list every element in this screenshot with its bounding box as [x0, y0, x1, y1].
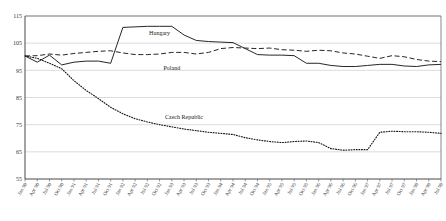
x-axis-tick-label: Oct 91 [101, 181, 113, 196]
y-axis-tick-label: 65 [16, 149, 22, 155]
x-axis-tick-label: Jul 90 [41, 181, 53, 195]
x-axis-tick-label: Oct 96 [346, 181, 358, 196]
y-axis-tick-label: 55 [16, 176, 22, 182]
x-axis-tick-label: Apr 91 [77, 181, 90, 197]
series-label-poland: Poland [163, 65, 180, 71]
y-axis-tick-label: 95 [16, 68, 22, 74]
x-axis-tick-label: Apr 92 [126, 181, 139, 197]
series-label-hungary: Hungary [149, 30, 170, 36]
x-axis-tick-label: Apr 96 [321, 181, 334, 197]
x-axis-tick-label: Oct 97 [395, 181, 407, 196]
x-axis-tick-label: Oct 92 [150, 181, 162, 196]
series-line-czech-republic [25, 56, 441, 150]
chart-container: 1151059585756555Jan 90Apr 90Jul 90Oct 90… [0, 0, 446, 221]
x-axis-tick-label: Jan 96 [310, 181, 322, 196]
y-axis-tick-label: 75 [16, 122, 22, 128]
x-axis-tick-label: Apr 95 [272, 181, 285, 197]
x-axis-tick-label: Jul 97 [383, 181, 395, 195]
y-axis-tick-label: 105 [13, 40, 22, 46]
x-axis-tick-label: Jan 90 [16, 181, 28, 196]
x-axis-tick-label: Jan 92 [114, 181, 126, 196]
x-axis-tick-label: Jan 98 [407, 181, 419, 196]
x-axis-tick-label: Jul 98 [432, 181, 444, 195]
x-axis-tick-label: Apr 97 [370, 181, 383, 197]
x-axis-tick-label: Jul 96 [335, 181, 347, 195]
x-axis-tick-label: Jan 93 [163, 181, 175, 196]
x-axis-tick-label: Oct 95 [297, 181, 309, 196]
x-axis-tick-label: Apr 98 [419, 181, 432, 197]
x-axis-tick-label: Jul 95 [286, 181, 298, 195]
x-axis-tick-label: Apr 93 [174, 181, 187, 197]
x-axis-tick-label: Apr 90 [28, 181, 41, 197]
x-axis-tick-label: Oct 93 [199, 181, 211, 196]
series-line-hungary [25, 26, 441, 66]
x-axis-tick-label: Oct 90 [52, 181, 64, 196]
series-line-poland [25, 48, 441, 62]
x-axis-tick-label: Jul 91 [90, 181, 102, 195]
x-axis-tick-label: Jul 93 [188, 181, 200, 195]
x-axis-tick-label: Jan 94 [212, 181, 224, 196]
x-axis-tick-label: Apr 94 [223, 181, 236, 197]
x-axis-tick-label: Jul 92 [139, 181, 151, 195]
x-axis-tick-label: Jul 94 [237, 181, 249, 195]
y-axis-tick-label: 85 [16, 95, 22, 101]
line-chart: 1151059585756555Jan 90Apr 90Jul 90Oct 90… [0, 0, 446, 221]
x-axis-tick-label: Jan 91 [65, 181, 77, 196]
x-axis-tick-label: Jan 95 [261, 181, 273, 196]
x-axis-tick-label: Jan 97 [359, 181, 371, 196]
x-axis-tick-label: Oct 94 [248, 181, 260, 196]
y-axis-tick-label: 115 [13, 13, 22, 19]
series-label-czech-republic: Czech Republic [165, 114, 203, 120]
